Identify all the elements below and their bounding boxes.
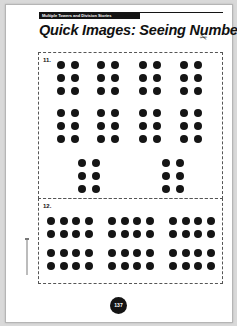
- dot: [180, 122, 188, 130]
- dot: [153, 87, 161, 95]
- dot: [180, 135, 188, 143]
- dot: [182, 230, 190, 238]
- dot: [146, 217, 154, 225]
- dot: [111, 87, 119, 95]
- dot: [194, 87, 202, 95]
- dot: [57, 122, 65, 130]
- dot: [47, 217, 55, 225]
- dot: [60, 230, 68, 238]
- dot: [176, 159, 184, 167]
- dot: [162, 172, 170, 180]
- dot: [121, 230, 129, 238]
- dot: [71, 109, 79, 117]
- dot: [194, 74, 202, 82]
- series-label-bar: Multiple Towers and Division Stories: [39, 12, 140, 19]
- dot: [78, 159, 86, 167]
- dot: [47, 230, 55, 238]
- dot: [180, 74, 188, 82]
- dot: [153, 74, 161, 82]
- dot: [60, 262, 68, 270]
- dot: [180, 109, 188, 117]
- dot: [194, 122, 202, 130]
- dot: [97, 61, 105, 69]
- dot: [194, 135, 202, 143]
- dot: [111, 135, 119, 143]
- dot: [139, 87, 147, 95]
- dot: [182, 262, 190, 270]
- dot: [97, 109, 105, 117]
- dot: [71, 135, 79, 143]
- dot: [108, 217, 116, 225]
- dot: [176, 172, 184, 180]
- dot: [108, 262, 116, 270]
- dot: [153, 61, 161, 69]
- dot: [207, 249, 215, 257]
- dot: [139, 61, 147, 69]
- dot: [85, 230, 93, 238]
- dot: [176, 185, 184, 193]
- dot: [139, 122, 147, 130]
- dot: [162, 185, 170, 193]
- dot: [153, 122, 161, 130]
- dot: [97, 87, 105, 95]
- header-rule: [140, 12, 223, 13]
- dot: [121, 249, 129, 257]
- dot: [92, 185, 100, 193]
- dot: [207, 217, 215, 225]
- dot: [146, 230, 154, 238]
- dot: [169, 249, 177, 257]
- dot: [207, 262, 215, 270]
- dot: [57, 135, 65, 143]
- dot: [139, 135, 147, 143]
- problem-11-label: 11.: [43, 57, 51, 63]
- dot: [194, 109, 202, 117]
- dot: [121, 217, 129, 225]
- dot: [92, 172, 100, 180]
- dot: [121, 262, 129, 270]
- dot: [47, 262, 55, 270]
- dot: [78, 172, 86, 180]
- dot: [57, 74, 65, 82]
- dot: [139, 109, 147, 117]
- dot: [97, 74, 105, 82]
- dot: [169, 217, 177, 225]
- dot: [85, 262, 93, 270]
- dot: [108, 249, 116, 257]
- dot: [57, 87, 65, 95]
- dot: [146, 262, 154, 270]
- dot: [146, 249, 154, 257]
- dot: [71, 87, 79, 95]
- dot: [57, 109, 65, 117]
- dot: [207, 230, 215, 238]
- side-credit-text: [26, 240, 28, 275]
- dot: [153, 135, 161, 143]
- dot: [111, 61, 119, 69]
- dot: [47, 249, 55, 257]
- dot: [162, 159, 170, 167]
- dot: [180, 61, 188, 69]
- dot: [169, 262, 177, 270]
- dot: [60, 217, 68, 225]
- dot: [71, 74, 79, 82]
- dot: [57, 61, 65, 69]
- dot: [108, 230, 116, 238]
- dot: [92, 159, 100, 167]
- dot: [97, 135, 105, 143]
- dot: [71, 122, 79, 130]
- dot: [111, 109, 119, 117]
- dot: [139, 74, 147, 82]
- dot: [85, 217, 93, 225]
- dot: [85, 249, 93, 257]
- page-number: 137: [114, 302, 122, 308]
- dot: [60, 249, 68, 257]
- dot: [111, 74, 119, 82]
- dot: [97, 122, 105, 130]
- dot: [71, 61, 79, 69]
- problem-12-label: 12.: [43, 203, 51, 209]
- dot: [194, 61, 202, 69]
- dot: [111, 122, 119, 130]
- problem-12-box: [38, 198, 223, 284]
- dot: [78, 185, 86, 193]
- dot: [180, 87, 188, 95]
- dot: [182, 249, 190, 257]
